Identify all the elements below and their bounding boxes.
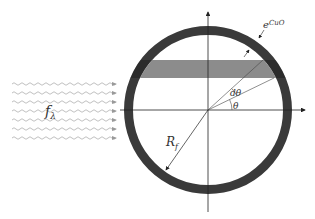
wave-line — [12, 83, 116, 86]
absorbing-band — [130, 60, 290, 78]
wave-line — [12, 128, 116, 131]
theta-label: θ — [233, 101, 239, 111]
radius-label: Rf — [165, 135, 180, 151]
wave-line — [12, 92, 116, 95]
wave-line — [12, 137, 116, 140]
wave-line — [12, 110, 116, 113]
wave-line — [12, 119, 116, 122]
thickness-label: eCuO — [263, 19, 285, 30]
cylinder-diagram: eCuO fλ Rf dθ θ — [0, 0, 315, 219]
thickness-arrow-outer — [259, 30, 264, 38]
wave-line — [12, 101, 116, 104]
theta-arc — [230, 100, 232, 110]
incident-flux-waves — [12, 82, 117, 140]
thickness-arrow-inner — [244, 50, 249, 57]
dtheta-label: dθ — [230, 88, 242, 98]
flux-label: fλ — [44, 103, 56, 121]
